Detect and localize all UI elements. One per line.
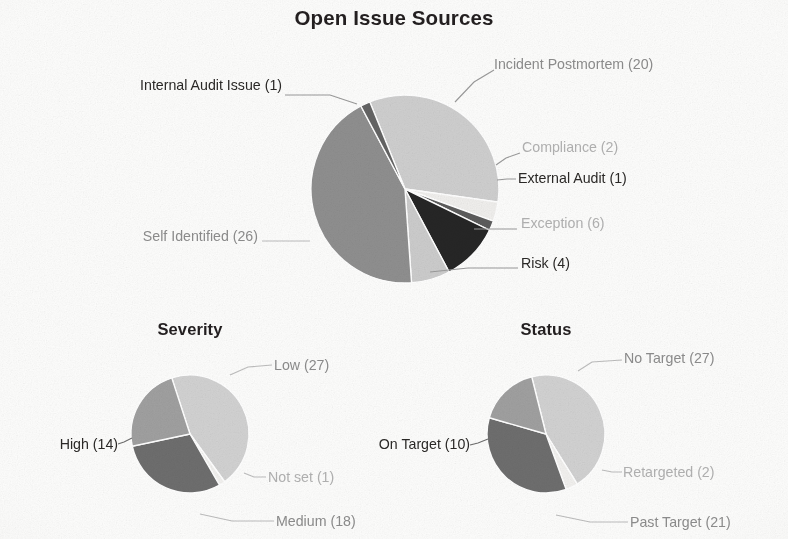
leader-past-target: [556, 515, 628, 522]
label-exception: Exception (6): [521, 216, 605, 230]
label-on-target: On Target (10): [320, 437, 470, 451]
label-incident-postmortem: Incident Postmortem (20): [494, 57, 653, 71]
leader-internal-audit-issue: [285, 95, 357, 104]
open-issue-sources-pie: Incident Postmortem (20)Compliance (2)Ex…: [0, 0, 788, 330]
leader-no-target: [578, 360, 622, 371]
leader-external-audit: [497, 179, 516, 180]
label-no-target: No Target (27): [624, 351, 714, 365]
pie-slices-main: Incident Postmortem (20)Compliance (2)Ex…: [311, 95, 499, 283]
pie-slices-status: No Target (27)Retargeted (2)Past Target …: [487, 375, 605, 493]
leader-on-target: [470, 439, 488, 445]
label-past-target: Past Target (21): [630, 515, 731, 529]
label-retargeted: Retargeted (2): [623, 465, 714, 479]
label-internal-audit-issue: Internal Audit Issue (1): [0, 78, 282, 92]
leader-incident-postmortem: [455, 70, 494, 102]
label-risk: Risk (4): [521, 256, 570, 270]
report-canvas: Open Issue Sources Incident Postmortem (…: [0, 0, 788, 539]
label-compliance: Compliance (2): [522, 140, 618, 154]
label-self-identified: Self Identified (26): [0, 229, 258, 243]
leader-compliance: [496, 153, 520, 165]
leader-retargeted: [602, 470, 622, 472]
label-external-audit: External Audit (1): [518, 171, 627, 185]
status-pie: No Target (27)Retargeted (2)Past Target …: [0, 310, 788, 539]
